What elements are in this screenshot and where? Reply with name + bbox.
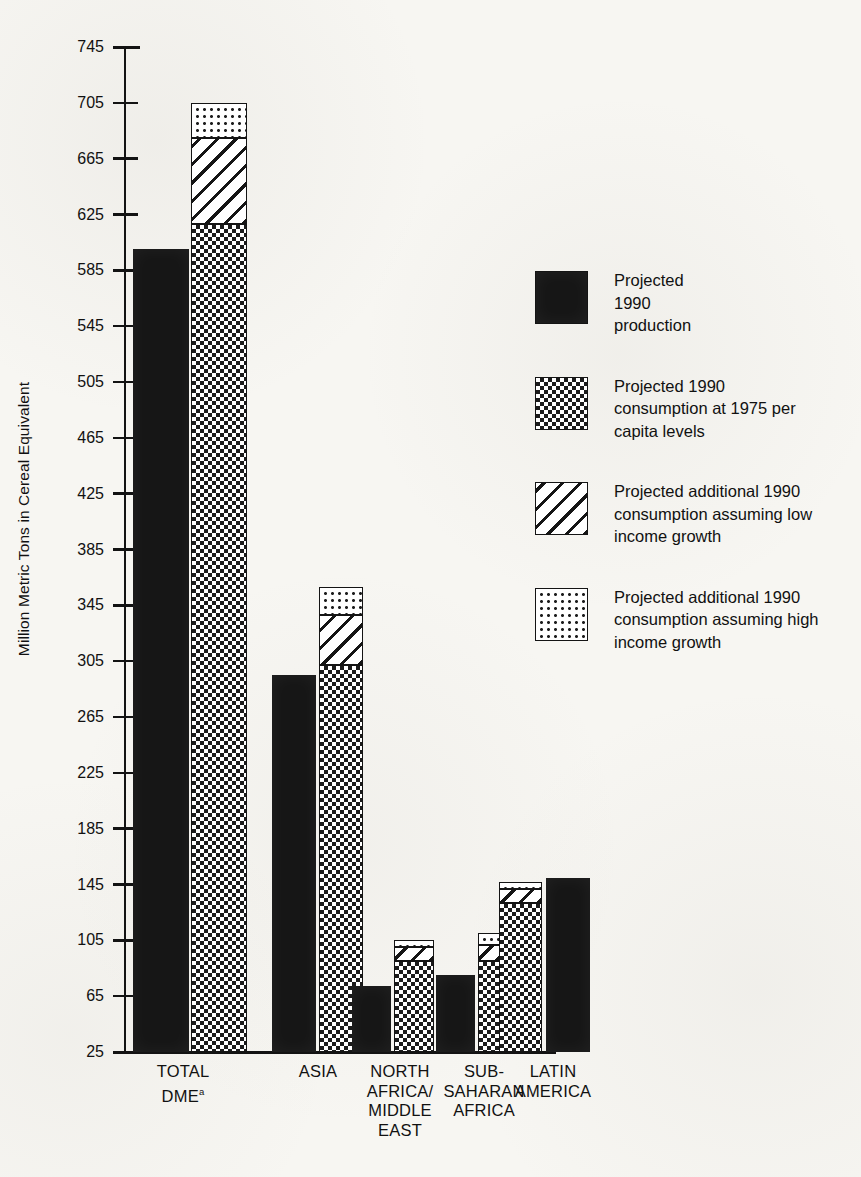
y-tick-label: 265: [0, 709, 104, 725]
bar-production-north-africa-middle-east: [352, 986, 391, 1052]
bar-consumption-1975-total-dme: [191, 224, 247, 1052]
category-label-latin-america: LATINAMERICA: [488, 1062, 618, 1101]
category-label-line: EAST: [340, 1121, 460, 1141]
bar-consumption-1975-latin-america: [499, 903, 542, 1052]
y-tick-mark: [113, 46, 140, 49]
bar-high-growth-latin-america: [499, 882, 542, 889]
category-label-line: DMEa: [118, 1082, 248, 1106]
legend-label-production: Projected 1990 production: [614, 269, 855, 337]
legend-label-additional-low-growth: Projected additional 1990 consumption as…: [614, 480, 855, 548]
y-tick-label: 185: [0, 821, 104, 837]
legend-item-additional-high-growth: Projected additional 1990 consumption as…: [535, 586, 855, 654]
y-tick-mark: [113, 213, 138, 215]
legend-label-additional-high-growth: Projected additional 1990 consumption as…: [614, 586, 855, 654]
category-label-line: AMERICA: [488, 1082, 618, 1102]
y-tick-label: 705: [0, 95, 104, 111]
y-tick-label: 225: [0, 765, 104, 781]
y-tick-mark: [113, 157, 138, 159]
y-axis-title: Million Metric Tons in Cereal Equivalent: [15, 259, 33, 779]
legend-swatch-solid-black-icon: [535, 271, 588, 324]
category-label-line: TOTAL: [118, 1062, 248, 1082]
y-tick-label: 305: [0, 653, 104, 669]
bar-low-growth-total-dme: [191, 138, 247, 225]
y-tick-label: 585: [0, 262, 104, 278]
bar-high-growth-north-africa-middle-east: [394, 940, 434, 947]
y-tick-label: 665: [0, 151, 104, 167]
category-label-total-dme: TOTALDMEa: [118, 1062, 248, 1106]
bar-low-growth-latin-america: [499, 889, 542, 903]
bar-production-asia: [272, 675, 316, 1052]
y-tick-label: 465: [0, 430, 104, 446]
category-label-line: AFRICA: [424, 1101, 544, 1121]
y-tick-label: 625: [0, 207, 104, 223]
legend-label-consumption-1975: Projected 1990 consumption at 1975 per c…: [614, 375, 855, 443]
y-tick-label: 65: [0, 988, 104, 1004]
legend-swatch-checkerboard-icon: [535, 377, 588, 430]
legend-item-additional-low-growth: Projected additional 1990 consumption as…: [535, 480, 855, 548]
y-tick-label: 385: [0, 542, 104, 558]
bar-production-sub-saharan-africa: [436, 975, 475, 1052]
category-footnote-marker: a: [199, 1086, 204, 1097]
bar-high-growth-asia: [319, 587, 363, 615]
bar-low-growth-asia: [319, 615, 363, 665]
y-tick-label: 345: [0, 597, 104, 613]
y-tick-mark: [113, 102, 138, 104]
legend-item-production: Projected 1990 production: [535, 269, 855, 337]
bar-low-growth-north-africa-middle-east: [394, 947, 434, 961]
y-tick-label: 505: [0, 374, 104, 390]
legend-swatch-stipple-dots-icon: [535, 588, 588, 641]
y-tick-label: 25: [0, 1044, 104, 1060]
y-tick-label: 545: [0, 318, 104, 334]
bar-production-total-dme: [133, 249, 189, 1052]
y-tick-label: 105: [0, 932, 104, 948]
bar-chart-figure: Million Metric Tons in Cereal Equivalent…: [0, 0, 861, 1177]
category-label-line: LATIN: [488, 1062, 618, 1082]
bar-production-latin-america: [546, 878, 590, 1052]
y-tick-label: 145: [0, 877, 104, 893]
y-tick-label: 425: [0, 486, 104, 502]
chart-legend: Projected 1990 productionProjected 1990 …: [535, 269, 855, 691]
legend-item-consumption-1975: Projected 1990 consumption at 1975 per c…: [535, 375, 855, 443]
legend-swatch-diagonal-hatch-icon: [535, 482, 588, 535]
bar-high-growth-total-dme: [191, 103, 247, 138]
bar-consumption-1975-north-africa-middle-east: [394, 961, 434, 1052]
y-tick-label: 745: [0, 39, 104, 55]
